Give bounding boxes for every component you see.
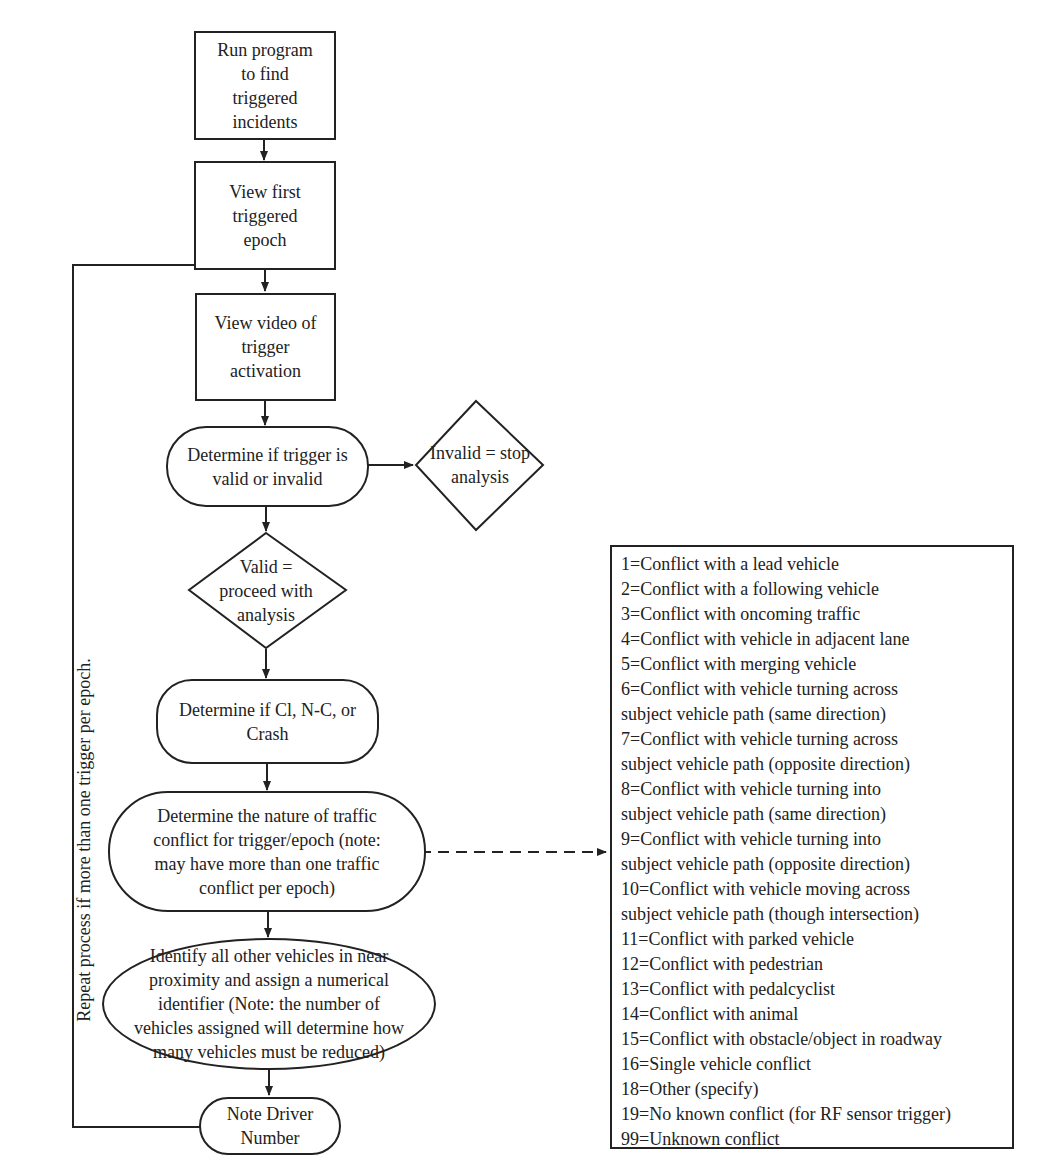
node-note-driver-text: Note Driver Number xyxy=(227,1102,313,1150)
code-line: 13=Conflict with pedalcyclist xyxy=(621,977,1012,1002)
code-line: 1=Conflict with a lead vehicle xyxy=(621,552,1012,577)
node-determine-nature: Determine the nature of traffic conflict… xyxy=(108,791,426,912)
code-line: 15=Conflict with obstacle/object in road… xyxy=(621,1027,1012,1052)
code-line: 8=Conflict with vehicle turning into xyxy=(621,777,1012,802)
code-line: 7=Conflict with vehicle turning across xyxy=(621,727,1012,752)
code-line: subject vehicle path (opposite direction… xyxy=(621,752,1012,777)
node-view-first-epoch-text: View first triggered epoch xyxy=(229,180,300,252)
node-determine-valid: Determine if trigger is valid or invalid xyxy=(166,426,369,507)
code-line: subject vehicle path (though intersectio… xyxy=(621,902,1012,927)
code-line: 12=Conflict with pedestrian xyxy=(621,952,1012,977)
node-determine-nature-text: Determine the nature of traffic conflict… xyxy=(153,804,380,900)
node-view-first-epoch: View first triggered epoch xyxy=(194,161,336,270)
code-line: subject vehicle path (same direction) xyxy=(621,802,1012,827)
node-valid-proceed-text: Valid = proceed with analysis xyxy=(196,555,336,627)
code-line: subject vehicle path (same direction) xyxy=(621,702,1012,727)
node-determine-ci-text: Determine if Cl, N-C, or Crash xyxy=(179,698,356,746)
code-line: 19=No known conflict (for RF sensor trig… xyxy=(621,1102,1012,1127)
node-identify-vehicles-text: Identify all other vehicles in near prox… xyxy=(134,944,404,1064)
node-note-driver: Note Driver Number xyxy=(199,1097,341,1155)
code-line: subject vehicle path (opposite direction… xyxy=(621,852,1012,877)
code-line: 99=Unknown conflict xyxy=(621,1127,1012,1152)
code-line: 14=Conflict with animal xyxy=(621,1002,1012,1027)
code-line: 16=Single vehicle conflict xyxy=(621,1052,1012,1077)
code-line: 3=Conflict with oncoming traffic xyxy=(621,602,1012,627)
node-determine-valid-text: Determine if trigger is valid or invalid xyxy=(187,443,347,491)
code-line: 5=Conflict with merging vehicle xyxy=(621,652,1012,677)
code-line: 4=Conflict with vehicle in adjacent lane xyxy=(621,627,1012,652)
node-invalid-stop-text: Invalid = stop analysis xyxy=(420,441,540,489)
code-line: 10=Conflict with vehicle moving across xyxy=(621,877,1012,902)
code-line: 9=Conflict with vehicle turning into xyxy=(621,827,1012,852)
node-run-program-text: Run program to find triggered incidents xyxy=(217,38,312,134)
node-determine-ci: Determine if Cl, N-C, or Crash xyxy=(156,679,379,764)
node-run-program: Run program to find triggered incidents xyxy=(194,31,336,140)
code-line: 6=Conflict with vehicle turning across xyxy=(621,677,1012,702)
node-view-video-text: View video of trigger activation xyxy=(215,311,317,383)
code-line: 18=Other (specify) xyxy=(621,1077,1012,1102)
node-identify-vehicles: Identify all other vehicles in near prox… xyxy=(102,938,436,1070)
node-view-video: View video of trigger activation xyxy=(195,293,336,401)
conflict-codes-box: 1=Conflict with a lead vehicle 2=Conflic… xyxy=(610,545,1014,1149)
code-line: 2=Conflict with a following vehicle xyxy=(621,577,1012,602)
code-line: 11=Conflict with parked vehicle xyxy=(621,927,1012,952)
loop-label: Repeat process if more than one trigger … xyxy=(72,610,96,1070)
